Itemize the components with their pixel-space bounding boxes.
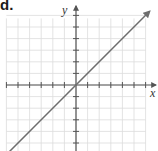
x-axis-label: x	[150, 86, 155, 101]
coordinate-plane	[0, 0, 158, 151]
y-axis-label: y	[62, 3, 67, 18]
